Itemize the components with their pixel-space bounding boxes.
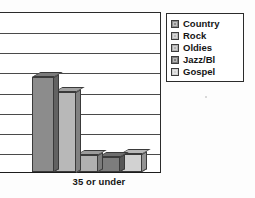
scan-artifact <box>205 96 207 98</box>
legend-item-gospel[interactable]: Gospel <box>171 66 239 77</box>
bar-group-35-or-under <box>0 13 160 172</box>
bar-face <box>32 77 54 172</box>
bar-side-face <box>98 152 103 172</box>
legend-swatch-rock <box>171 32 179 40</box>
legend-item-jazz-bl[interactable]: Jazz/Bl <box>171 54 239 65</box>
legend-swatch-gospel <box>171 68 179 76</box>
legend-label-country: Country <box>183 19 219 29</box>
chart-canvas: 35 or under Country Rock Oldies Jazz/Bl … <box>0 0 255 198</box>
legend-label-rock: Rock <box>183 31 206 41</box>
legend-item-rock[interactable]: Rock <box>171 30 239 41</box>
bar-country <box>32 77 54 172</box>
legend: Country Rock Oldies Jazz/Bl Gospel <box>166 13 244 82</box>
legend-label-jazz-bl: Jazz/Bl <box>183 55 215 65</box>
legend-swatch-country <box>171 20 179 28</box>
legend-label-oldies: Oldies <box>183 43 212 53</box>
legend-swatch-oldies <box>171 44 179 52</box>
legend-swatch-jazz-bl <box>171 56 179 64</box>
bar-side-face <box>120 154 125 172</box>
x-axis-category-label: 35 or under <box>44 176 154 187</box>
legend-item-country[interactable]: Country <box>171 18 239 29</box>
legend-label-gospel: Gospel <box>183 67 215 77</box>
bar-side-face <box>54 75 59 172</box>
plot-area <box>0 12 161 173</box>
bar-side-face <box>142 151 147 172</box>
bar-side-face <box>76 89 81 172</box>
legend-item-oldies[interactable]: Oldies <box>171 42 239 53</box>
